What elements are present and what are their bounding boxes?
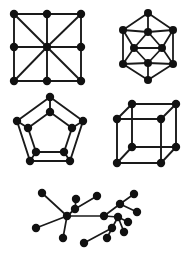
graph-figure: [0, 0, 189, 258]
graph-node: [77, 77, 85, 85]
graph-edge: [14, 14, 47, 47]
graph-node: [59, 234, 67, 242]
graph-node: [114, 213, 122, 221]
graph-node: [158, 44, 166, 52]
graph-node: [157, 115, 165, 123]
graph-edge: [148, 13, 173, 30]
graph-edge: [47, 47, 81, 81]
graph-node: [172, 100, 180, 108]
graph-node: [72, 195, 80, 203]
graph-node: [24, 124, 32, 132]
graph-edge: [47, 14, 81, 47]
graph-edge: [50, 97, 83, 121]
graph-node: [77, 43, 85, 51]
graph-node: [93, 192, 101, 200]
graph-node: [128, 100, 136, 108]
icosahedral-hexagon-graph: [119, 9, 177, 84]
graph-node: [124, 218, 132, 226]
graph-node: [38, 189, 46, 197]
graph-node: [169, 60, 177, 68]
graph-node: [169, 26, 177, 34]
graph-node: [130, 190, 138, 198]
graph-node: [32, 148, 40, 156]
graph-node: [108, 224, 116, 232]
graph-node: [63, 212, 71, 220]
graph-node: [46, 108, 54, 116]
graph-node: [144, 59, 152, 67]
cube-graph: [113, 100, 180, 167]
graph-node: [10, 43, 18, 51]
graph-node: [68, 124, 76, 132]
graph-node: [66, 157, 74, 165]
graph-node: [32, 224, 40, 232]
graph-edge: [42, 193, 67, 216]
graph-node: [60, 148, 68, 156]
graph-node: [80, 239, 88, 247]
graph-edge: [123, 13, 148, 30]
graph-edge: [36, 216, 67, 228]
graph-node: [26, 157, 34, 165]
graph-node: [77, 10, 85, 18]
graph-node: [119, 60, 127, 68]
graph-node: [79, 117, 87, 125]
graph-node: [157, 159, 165, 167]
graph-edge: [123, 64, 148, 80]
graph-node: [119, 26, 127, 34]
graph-node: [113, 159, 121, 167]
graph-node: [71, 205, 79, 213]
graph-node: [103, 234, 111, 242]
tree-graph: [32, 189, 141, 247]
graph-edge: [17, 97, 50, 121]
graph-node: [10, 77, 18, 85]
graph-node: [144, 28, 152, 36]
graph-node: [43, 77, 51, 85]
graph-edge: [148, 64, 173, 80]
graph-node: [10, 10, 18, 18]
graph-node: [43, 43, 51, 51]
graph-node: [120, 228, 128, 236]
graph-node: [128, 143, 136, 151]
graph-node: [100, 212, 108, 220]
graph-node: [130, 44, 138, 52]
graph-node: [13, 117, 21, 125]
graph-node: [144, 76, 152, 84]
pentagonal-prism-graph: [13, 93, 87, 165]
graph-node: [46, 93, 54, 101]
graph-node: [172, 143, 180, 151]
graph-edge: [14, 47, 47, 81]
graph-node: [144, 9, 152, 17]
graph-node: [116, 200, 124, 208]
grid-graph-with-diagonals: [10, 10, 85, 85]
graph-canvas: [0, 0, 189, 258]
cube-graph-edges: [117, 104, 176, 163]
graph-node: [113, 115, 121, 123]
graph-node: [43, 10, 51, 18]
graph-node: [133, 208, 141, 216]
